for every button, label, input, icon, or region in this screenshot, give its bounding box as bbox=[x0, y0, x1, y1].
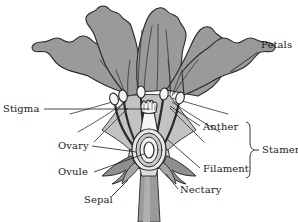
flower-diagram-figure: Stigma Petals Anther Filament Stamen Ova… bbox=[0, 0, 298, 222]
anther-3 bbox=[137, 86, 146, 98]
label-nectary: Nectary bbox=[180, 184, 221, 195]
flower-anatomy-illustration bbox=[0, 0, 298, 222]
ovule-shape bbox=[144, 142, 154, 158]
label-stigma: Stigma bbox=[3, 103, 40, 114]
label-ovary: Ovary bbox=[58, 140, 89, 151]
label-filament: Filament bbox=[203, 163, 249, 174]
label-sepal: Sepal bbox=[84, 194, 113, 205]
label-petals: Petals bbox=[261, 39, 292, 50]
label-stamen: Stamen bbox=[262, 144, 298, 155]
label-anther: Anther bbox=[203, 121, 238, 132]
stigma-shape bbox=[141, 100, 157, 113]
label-ovule: Ovule bbox=[58, 166, 88, 177]
